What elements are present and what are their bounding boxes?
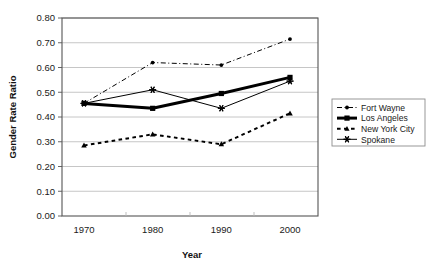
data-point-marker (151, 61, 155, 65)
y-tick-label: 0.40 (37, 111, 56, 122)
legend-marker (345, 106, 349, 110)
legend-label: Los Angeles (361, 113, 408, 123)
data-point-marker (219, 63, 223, 67)
y-axis-title: Gender Rate Ratio (7, 75, 18, 158)
x-tick-label: 1970 (73, 224, 94, 235)
y-tick-label: 0.70 (37, 37, 56, 48)
line-chart: 0.000.100.200.300.400.500.600.700.80 197… (0, 0, 429, 270)
y-tick-label: 0.20 (37, 161, 56, 172)
y-tick-label: 0.50 (37, 87, 56, 98)
y-tick-label: 0.60 (37, 62, 56, 73)
x-axis-title: Year (182, 249, 202, 260)
data-point-marker (219, 91, 224, 96)
legend-label: Spokane (361, 135, 395, 145)
x-tick-label: 2000 (279, 224, 300, 235)
legend-marker (344, 116, 349, 121)
y-axis-tick-labels: 0.000.100.200.300.400.500.600.700.80 (37, 12, 56, 221)
chart-legend: Fort WayneLos AngelesNew York CitySpokan… (332, 99, 425, 146)
legend-label: Fort Wayne (361, 103, 405, 113)
y-tick-label: 0.80 (37, 12, 56, 23)
data-point-marker (150, 106, 155, 111)
y-tick-label: 0.10 (37, 186, 56, 197)
data-point-marker (287, 75, 292, 80)
x-tick-label: 1980 (142, 224, 163, 235)
chart-figure: 0.000.100.200.300.400.500.600.700.80 197… (0, 0, 429, 270)
y-tick-label: 0.30 (37, 136, 56, 147)
x-tick-label: 1990 (211, 224, 232, 235)
data-point-marker (288, 37, 292, 41)
legend-label: New York City (361, 124, 415, 134)
y-tick-label: 0.00 (37, 210, 56, 221)
